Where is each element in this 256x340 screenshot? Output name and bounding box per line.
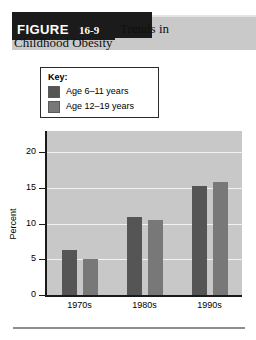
bar-1970s-series-2	[83, 259, 98, 295]
y-axis-tick-label: 20	[14, 146, 36, 156]
figure-header: FIGURE 16-9 Trends in Childhood Obesity	[0, 0, 256, 52]
bar-1970s-series-1	[62, 250, 77, 295]
bar-1990s-series-2	[213, 182, 228, 295]
y-axis-tick-label: 15	[14, 182, 36, 192]
legend-title: Key:	[48, 72, 68, 82]
y-axis-tick-label: 0	[14, 289, 36, 299]
legend-swatch-series-2	[48, 101, 60, 113]
y-axis-tick-label: 10	[14, 218, 36, 228]
plot-area	[47, 131, 242, 295]
y-axis-tick	[39, 224, 46, 225]
bar-1980s-series-1	[127, 217, 142, 295]
footer-divider	[13, 327, 245, 329]
chart-legend: Key: Age 6–11 years Age 12–19 years	[40, 67, 159, 118]
y-axis-tick	[39, 259, 46, 260]
x-axis-label-1990s: 1990s	[180, 300, 240, 310]
legend-label-series-1: Age 6–11 years	[66, 86, 128, 96]
y-axis-tick-label: 5	[14, 253, 36, 263]
y-axis-tick	[39, 152, 46, 153]
gridline	[47, 152, 242, 153]
legend-label-series-2: Age 12–19 years	[66, 101, 134, 111]
x-axis-label-1970s: 1970s	[50, 300, 110, 310]
x-axis-line	[45, 295, 242, 297]
figure-page: FIGURE 16-9 Trends in Childhood Obesity …	[0, 0, 256, 340]
y-axis-tick	[39, 188, 46, 189]
bar-1980s-series-2	[148, 220, 163, 295]
x-axis-label-1980s: 1980s	[115, 300, 175, 310]
y-axis-line	[45, 131, 47, 296]
bar-1990s-series-1	[192, 186, 207, 295]
bar-chart: Percent 05101520 1970s1980s1990s	[0, 124, 256, 314]
figure-title-line-1: Trends in	[120, 21, 169, 37]
y-axis-tick	[39, 295, 46, 296]
figure-title-line-2: Childhood Obesity	[14, 35, 113, 51]
legend-swatch-series-1	[48, 86, 60, 98]
